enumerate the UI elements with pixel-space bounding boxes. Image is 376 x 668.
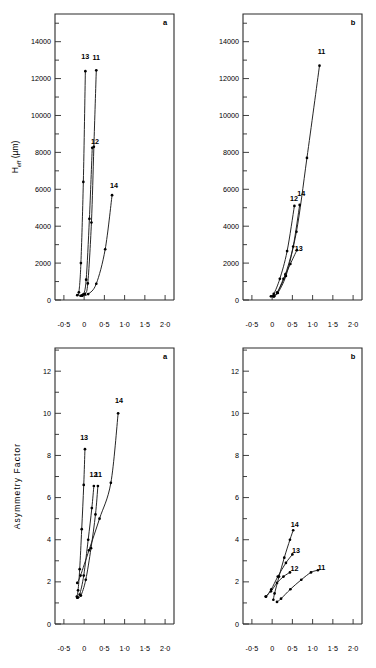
- x-tick-label: -0·5: [246, 644, 259, 653]
- y-tick-label: 6000: [223, 185, 239, 194]
- data-point: [88, 217, 91, 220]
- panel-top-left: 02000400060008000100001200014000-0·500·5…: [0, 0, 188, 334]
- x-tick-label: 1·0: [119, 644, 129, 653]
- data-point: [80, 528, 83, 531]
- data-point: [276, 292, 279, 295]
- data-point: [111, 194, 114, 197]
- data-point: [76, 595, 79, 598]
- data-point: [285, 275, 288, 278]
- curve-label-14: 14: [297, 189, 305, 198]
- data-point: [272, 295, 275, 298]
- curve-label-11: 11: [318, 47, 326, 56]
- data-point: [272, 293, 275, 296]
- data-point: [318, 64, 321, 67]
- data-point: [79, 574, 82, 577]
- y-tick-label: 10: [43, 409, 51, 418]
- panel-letter: b: [351, 18, 356, 27]
- x-tick-label: 1·0: [119, 320, 129, 329]
- data-point: [285, 562, 288, 565]
- data-point: [95, 282, 98, 285]
- y-tick-label: 10000: [219, 111, 239, 120]
- x-tick-label: 1·0: [307, 320, 317, 329]
- x-tick-label: 0·5: [287, 320, 297, 329]
- x-tick-label: -0·5: [58, 320, 71, 329]
- curve-label-13: 13: [80, 433, 88, 442]
- data-point: [86, 282, 89, 285]
- data-point: [90, 507, 93, 510]
- data-point: [292, 529, 295, 532]
- chart-top-right: 02000400060008000100001200014000-0·500·5…: [188, 0, 376, 334]
- data-point: [87, 538, 90, 541]
- y-tick-label: 0: [235, 620, 239, 629]
- x-tick-label: 2·0: [160, 644, 170, 653]
- x-tick-label: 0·5: [99, 320, 109, 329]
- x-tick-label: 0: [270, 644, 274, 653]
- panel-letter: b: [351, 352, 356, 361]
- data-point: [310, 571, 313, 574]
- data-point: [265, 595, 268, 598]
- data-point: [76, 294, 79, 297]
- figure-root: 02000400060008000100001200014000-0·500·5…: [0, 0, 376, 668]
- curve-label-12: 12: [89, 470, 97, 479]
- svg-text:Asymmetry Factor: Asymmetry Factor: [12, 443, 22, 530]
- data-point: [280, 597, 283, 600]
- data-point: [289, 538, 292, 541]
- svg-text:Heff (µm): Heff (µm): [10, 140, 22, 173]
- data-point: [80, 262, 83, 265]
- data-point: [78, 593, 81, 596]
- plot-frame: [243, 348, 362, 624]
- panel-bottom-right: 024681012-0·500·51·01·52·0k'b11121314: [188, 334, 376, 668]
- x-tick-label: -0·5: [246, 320, 259, 329]
- y-tick-label: 14000: [219, 37, 239, 46]
- data-point: [78, 568, 81, 571]
- curve-11: [277, 570, 318, 602]
- x-tick-label: 1·5: [328, 320, 338, 329]
- data-point: [91, 146, 94, 149]
- plot-frame: [55, 348, 174, 624]
- y-tick-label: 12: [43, 367, 51, 376]
- data-point: [273, 592, 276, 595]
- data-point: [97, 485, 100, 488]
- panel-top-right: 02000400060008000100001200014000-0·500·5…: [188, 0, 376, 334]
- data-point: [293, 205, 296, 208]
- data-point: [84, 448, 87, 451]
- data-point: [95, 69, 98, 72]
- curve-11: [273, 66, 320, 296]
- data-point: [87, 293, 90, 296]
- data-point: [84, 70, 87, 73]
- data-point: [93, 485, 96, 488]
- x-tick-label: 1·0: [307, 644, 317, 653]
- data-point: [88, 549, 91, 552]
- x-tick-label: 2·0: [348, 644, 358, 653]
- x-tick-label: 0·5: [99, 644, 109, 653]
- data-point: [286, 250, 289, 253]
- data-point: [76, 582, 79, 585]
- y-tick-label: 0: [235, 296, 239, 305]
- data-point: [298, 204, 301, 207]
- panel-letter: a: [163, 352, 168, 361]
- y-tick-label: 6: [47, 493, 51, 502]
- data-point: [278, 575, 281, 578]
- data-point: [270, 588, 273, 591]
- curve-label-12: 12: [91, 137, 99, 146]
- curve-label-14: 14: [291, 520, 299, 529]
- curve-label-14: 14: [115, 396, 123, 405]
- x-tick-label: 1·5: [328, 644, 338, 653]
- x-tick-label: 2·0: [348, 320, 358, 329]
- data-point: [110, 481, 113, 484]
- curve-label-12: 12: [290, 564, 298, 573]
- curve-label-13: 13: [295, 244, 303, 253]
- data-point: [272, 598, 275, 601]
- data-point: [289, 588, 292, 591]
- plot-frame: [243, 14, 362, 300]
- x-tick-label: 0: [82, 320, 86, 329]
- y-tick-label: 12000: [219, 74, 239, 83]
- y-tick-label: 4000: [35, 222, 51, 231]
- y-tick-label: 8000: [223, 148, 239, 157]
- y-axis-title: Heff (µm): [10, 140, 22, 173]
- data-point: [82, 181, 85, 184]
- y-tick-label: 6: [235, 493, 239, 502]
- y-axis-title: Asymmetry Factor: [12, 443, 22, 530]
- y-tick-label: 14000: [31, 37, 51, 46]
- y-tick-label: 2000: [35, 259, 51, 268]
